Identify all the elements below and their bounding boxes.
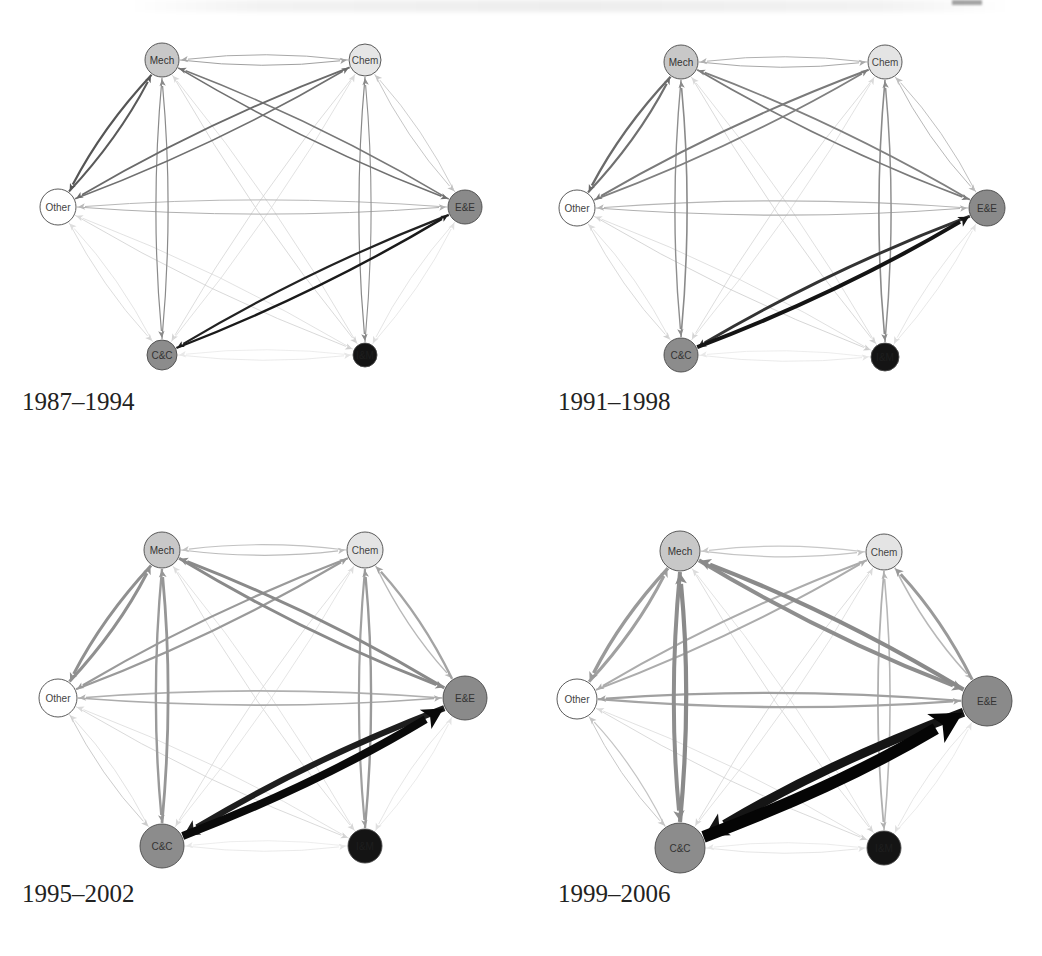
network-panel-1991-1998: MechChemOtherE&EC&CI&M bbox=[559, 45, 1005, 372]
network-figure: MechChemOtherE&EC&CI&MMechChemOtherE&EC&… bbox=[0, 0, 1042, 956]
edge-group bbox=[589, 546, 972, 853]
edge-chem-to-other bbox=[82, 67, 350, 195]
arrowhead-icon bbox=[677, 329, 683, 336]
arrowhead-icon bbox=[182, 546, 189, 552]
node-label: Mech bbox=[150, 55, 174, 66]
node-chem: Chem bbox=[349, 44, 381, 76]
edge-chem-to-iandm bbox=[879, 80, 885, 334]
node-other: Other bbox=[40, 189, 76, 225]
edge-iandm-to-eande bbox=[894, 231, 973, 345]
node-label: Mech bbox=[668, 546, 692, 557]
panel-caption-1995-2002: 1995–2002 bbox=[22, 880, 135, 908]
edge-candc-to-mech bbox=[680, 584, 686, 822]
node-label: C&C bbox=[670, 350, 691, 361]
edge-iandm-to-candc bbox=[186, 350, 352, 355]
edge-other-to-mech bbox=[589, 576, 664, 682]
edge-mech-to-other bbox=[594, 568, 668, 673]
edge-chem-to-iandm bbox=[359, 569, 365, 820]
arrowhead-icon bbox=[159, 570, 167, 578]
node-mech: Mech bbox=[664, 45, 698, 79]
arrowhead-icon bbox=[960, 205, 967, 211]
arrowhead-icon bbox=[361, 334, 367, 341]
edge-other-to-candc bbox=[589, 716, 660, 820]
edge-mech-to-candc bbox=[674, 572, 680, 811]
edge-mech-to-candc bbox=[675, 80, 681, 329]
arrowhead-icon bbox=[181, 56, 188, 62]
arrowhead-icon bbox=[77, 707, 85, 713]
edge-mech-to-candc bbox=[156, 569, 162, 815]
edge-eande-to-other bbox=[606, 693, 961, 701]
edge-candc-to-iandm bbox=[185, 846, 339, 851]
arrowhead-icon bbox=[862, 354, 869, 360]
node-label: E&E bbox=[455, 202, 475, 213]
edge-chem-to-eande bbox=[375, 74, 450, 186]
node-label: Other bbox=[45, 202, 71, 213]
node-eande: E&E bbox=[969, 190, 1005, 226]
node-chem: Chem bbox=[347, 532, 383, 568]
edge-chem-to-other bbox=[83, 558, 348, 685]
arrowhead-icon bbox=[858, 846, 865, 852]
arrowhead-icon bbox=[76, 215, 84, 221]
arrowhead-icon bbox=[362, 78, 368, 85]
edge-eande-to-chem bbox=[381, 572, 452, 679]
node-label: I&M bbox=[875, 843, 893, 854]
node-other: Other bbox=[559, 190, 595, 226]
node-label: I&M bbox=[356, 350, 374, 361]
edge-candc-to-iandm bbox=[706, 848, 858, 853]
node-group: MechChemOtherE&EC&CI&M bbox=[559, 45, 1005, 372]
node-other: Other bbox=[557, 679, 597, 719]
node-candc: C&C bbox=[655, 823, 705, 873]
arrowhead-icon bbox=[79, 694, 86, 700]
arrowhead-icon bbox=[158, 331, 164, 338]
edge-iandm-to-chem bbox=[365, 85, 371, 342]
arrowhead-icon bbox=[859, 60, 866, 66]
node-eande: E&E bbox=[443, 676, 487, 720]
edge-candc-to-other bbox=[74, 229, 153, 342]
arrowhead-icon bbox=[700, 351, 707, 357]
arrowhead-icon bbox=[675, 573, 687, 584]
node-label: C&C bbox=[151, 841, 172, 852]
node-label: Mech bbox=[669, 57, 693, 68]
node-label: E&E bbox=[977, 203, 997, 214]
node-chem: Chem bbox=[866, 534, 902, 570]
arrowhead-icon bbox=[679, 81, 685, 88]
node-chem: Chem bbox=[868, 45, 902, 79]
edge-candc-to-iandm bbox=[699, 355, 862, 361]
edge-chem-to-mech bbox=[189, 545, 346, 550]
edge-iandm-to-eande bbox=[372, 229, 451, 344]
arrowhead-icon bbox=[78, 203, 85, 209]
node-label: C&C bbox=[151, 350, 172, 361]
edge-chem-to-iandm bbox=[359, 77, 365, 334]
node-label: Other bbox=[564, 203, 590, 214]
network-panel-1995-2002: MechChemOtherE&EC&CI&M bbox=[39, 532, 487, 868]
edge-iandm-to-candc bbox=[707, 351, 870, 357]
edge-mech-to-other bbox=[592, 77, 671, 186]
arrowhead-icon bbox=[881, 334, 887, 341]
panel-caption-1991-1998: 1991–1998 bbox=[558, 388, 671, 416]
edge-eande-to-other bbox=[86, 691, 442, 698]
node-iandm: I&M bbox=[348, 829, 382, 863]
edge-chem-to-mech bbox=[707, 57, 867, 62]
arrowhead-icon bbox=[339, 844, 346, 850]
edge-candc-to-eande bbox=[176, 219, 442, 348]
edge-iandm-to-chem bbox=[885, 88, 891, 342]
edge-mech-to-candc bbox=[156, 78, 162, 331]
edge-group bbox=[69, 55, 455, 361]
edge-mech-to-chem bbox=[699, 62, 859, 67]
edge-mech-to-chem bbox=[180, 60, 340, 65]
node-mech: Mech bbox=[660, 531, 700, 571]
node-label: Mech bbox=[150, 545, 174, 556]
edge-other-to-candc bbox=[70, 714, 144, 821]
node-label: I&M bbox=[876, 352, 894, 363]
node-iandm: I&M bbox=[871, 343, 899, 371]
arrowhead-icon bbox=[597, 204, 604, 210]
edge-iandm-to-candc bbox=[714, 843, 866, 848]
arrowhead-icon bbox=[344, 353, 351, 359]
node-other: Other bbox=[39, 679, 77, 717]
network-panel-1999-2006: MechChemOtherE&EC&CI&M bbox=[557, 531, 1012, 873]
edge-chem-to-eande bbox=[376, 566, 447, 673]
edge-other-to-eande bbox=[598, 699, 953, 707]
edge-mech-to-eande bbox=[179, 558, 436, 684]
node-label: Chem bbox=[352, 55, 379, 66]
node-mech: Mech bbox=[144, 532, 180, 568]
